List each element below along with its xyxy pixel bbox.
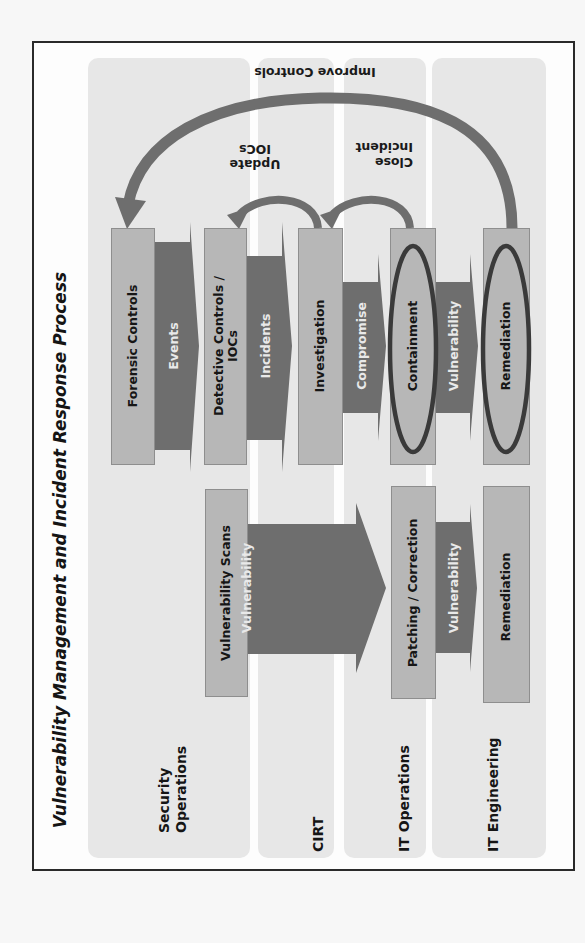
detective-controls-label-line: Detective Controls / xyxy=(212,276,226,416)
detective-controls-label: Detective Controls / IOCs xyxy=(211,246,241,446)
investigation-label: Investigation xyxy=(310,246,330,446)
update-iocs-label-line: Update xyxy=(215,157,295,172)
remediation-label: Remediation xyxy=(496,246,516,446)
forensic-controls-label: Forensic Controls xyxy=(123,246,143,446)
containment-label: Containment xyxy=(403,246,423,446)
events-label: Events xyxy=(163,246,183,446)
update-iocs-label: Update IOCs xyxy=(215,140,295,172)
vulnerability-scans-label: Vulnerability Scans xyxy=(216,493,236,693)
update-iocs-label-line: IOCs xyxy=(215,142,295,157)
improve-controls-label: Improve Controls xyxy=(240,64,390,80)
vulnerability-small-label: Vulnerability xyxy=(443,488,463,688)
compromise-label: Compromise xyxy=(351,246,371,446)
incidents-label: Incidents xyxy=(255,246,275,446)
vulnerability-big-label: Vulnerability xyxy=(236,488,256,688)
remediation-vm-label: Remediation xyxy=(496,497,516,697)
close-incident-label-line: Incident xyxy=(323,140,413,155)
vulnerability-ir-label: Vulnerability xyxy=(443,246,463,446)
close-incident-label-line: Close xyxy=(323,155,413,170)
detective-controls-label-line: IOCs xyxy=(226,276,240,416)
close-incident-label: Close Incident xyxy=(323,138,413,170)
patching-correction-label: Patching / Correction xyxy=(403,493,423,693)
